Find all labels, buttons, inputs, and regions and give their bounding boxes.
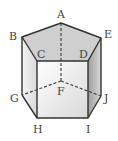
vertex-label-A: A [56,8,66,21]
vertex-label-H: H [33,123,43,136]
vertex-label-B: B [9,30,17,43]
vertex-label-G: G [10,92,19,105]
vertex-label-F: F [57,85,65,98]
vertex-label-I: I [86,123,90,136]
pentagonal-prism-diagram: A B C D E F G H I J [0,0,118,141]
vertex-label-E: E [104,28,112,41]
vertex-label-C: C [37,48,45,61]
vertex-label-D: D [79,48,88,61]
vertex-label-J: J [103,92,108,105]
